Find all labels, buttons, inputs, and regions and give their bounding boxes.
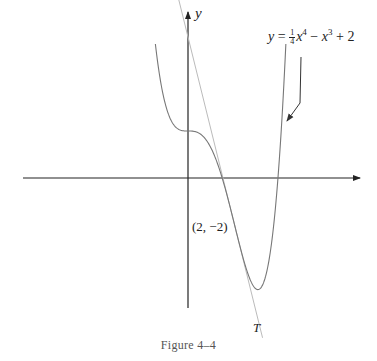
eq-plus: +	[336, 29, 344, 44]
inflection-point-label: (2, −2)	[192, 219, 228, 235]
eq-term2-exp: 3	[328, 27, 333, 37]
eq-minus: −	[310, 29, 318, 44]
eq-const: 2	[347, 29, 354, 44]
equation-leader-arrow	[287, 57, 301, 121]
eq-fraction: 14	[289, 29, 295, 46]
tangent-label: T	[253, 320, 260, 336]
frac-den: 4	[289, 38, 295, 46]
tangent-line	[174, 0, 263, 338]
equation-label: y = 14x4 − x3 + 2	[268, 27, 354, 46]
eq-lhs: y	[268, 29, 274, 44]
eq-equals: =	[278, 29, 286, 44]
eq-term1-exp: 4	[302, 27, 307, 37]
figure-caption: Figure 4–4	[0, 338, 377, 353]
chart-canvas	[0, 0, 377, 361]
y-axis-label: y	[195, 5, 202, 22]
